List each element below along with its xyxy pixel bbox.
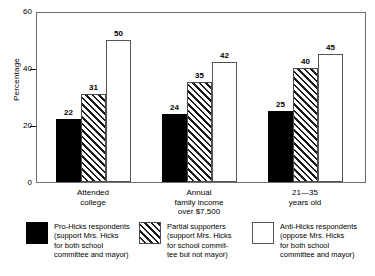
x-axis-label-age-21-35: 21—35 years old — [240, 188, 370, 207]
bar-value-label: 25 — [276, 101, 285, 109]
legend-swatch-solid-black-icon — [26, 222, 48, 244]
chart-legend: Pro-Hicks respondents (support Mrs. Hick… — [0, 222, 375, 276]
bar-group-age-21-35: 25 40 45 — [268, 11, 343, 182]
legend-item-pro-hicks: Pro-Hicks respondents (support Mrs. Hick… — [26, 222, 146, 259]
legend-label-pro-hicks: Pro-Hicks respondents (support Mrs. Hick… — [54, 222, 130, 259]
bar-value-label: 50 — [114, 30, 123, 38]
bar-chart: Percentage 60 40 20 0 22 31 50 24 35 — [0, 0, 375, 276]
bar-value-label: 40 — [301, 58, 310, 66]
plot-area: 22 31 50 24 35 42 25 — [36, 12, 366, 183]
bar-value-label: 31 — [89, 84, 98, 92]
bar-antihicks-attended-college: 50 — [106, 40, 131, 183]
bar-value-label: 22 — [64, 109, 73, 117]
bar-value-label: 42 — [220, 52, 229, 60]
legend-swatch-hatched-icon — [139, 222, 161, 244]
legend-label-partial-supporters: Partial supporters (support Mrs. Hicks f… — [167, 222, 232, 259]
legend-item-anti-hicks: Anti-Hicks respondents (oppose Mrs. Hick… — [252, 222, 374, 259]
legend-item-partial-supporters: Partial supporters (support Mrs. Hicks f… — [139, 222, 257, 259]
y-tick-label-60: 60 — [0, 8, 32, 16]
bar-partial-age-21-35: 40 — [293, 68, 318, 182]
bar-partial-attended-college: 31 — [81, 94, 106, 182]
legend-label-anti-hicks: Anti-Hicks respondents (oppose Mrs. Hick… — [280, 222, 357, 259]
legend-swatch-open-white-icon — [252, 222, 274, 244]
y-tick-label-20: 20 — [0, 122, 32, 130]
bar-value-label: 24 — [170, 104, 179, 112]
y-tick-label-0: 0 — [0, 179, 32, 187]
bar-group-attended-college: 22 31 50 — [56, 11, 131, 182]
bar-antihicks-family-income: 42 — [212, 62, 237, 182]
bar-value-label: 35 — [195, 72, 204, 80]
bar-value-label: 45 — [326, 44, 335, 52]
bar-group-family-income: 24 35 42 — [162, 11, 237, 182]
bar-prohicks-age-21-35: 25 — [268, 111, 293, 182]
x-label-line-3: over $7,500 — [134, 207, 264, 217]
y-axis-title: Percentage — [12, 40, 21, 120]
x-label-line-2: years old — [240, 198, 370, 208]
bar-antihicks-age-21-35: 45 — [318, 54, 343, 182]
bar-prohicks-attended-college: 22 — [56, 119, 81, 182]
x-label-line-1: 21—35 — [240, 188, 370, 198]
bar-prohicks-family-income: 24 — [162, 114, 187, 182]
bar-partial-family-income: 35 — [187, 82, 212, 182]
y-tick-label-40: 40 — [0, 65, 32, 73]
